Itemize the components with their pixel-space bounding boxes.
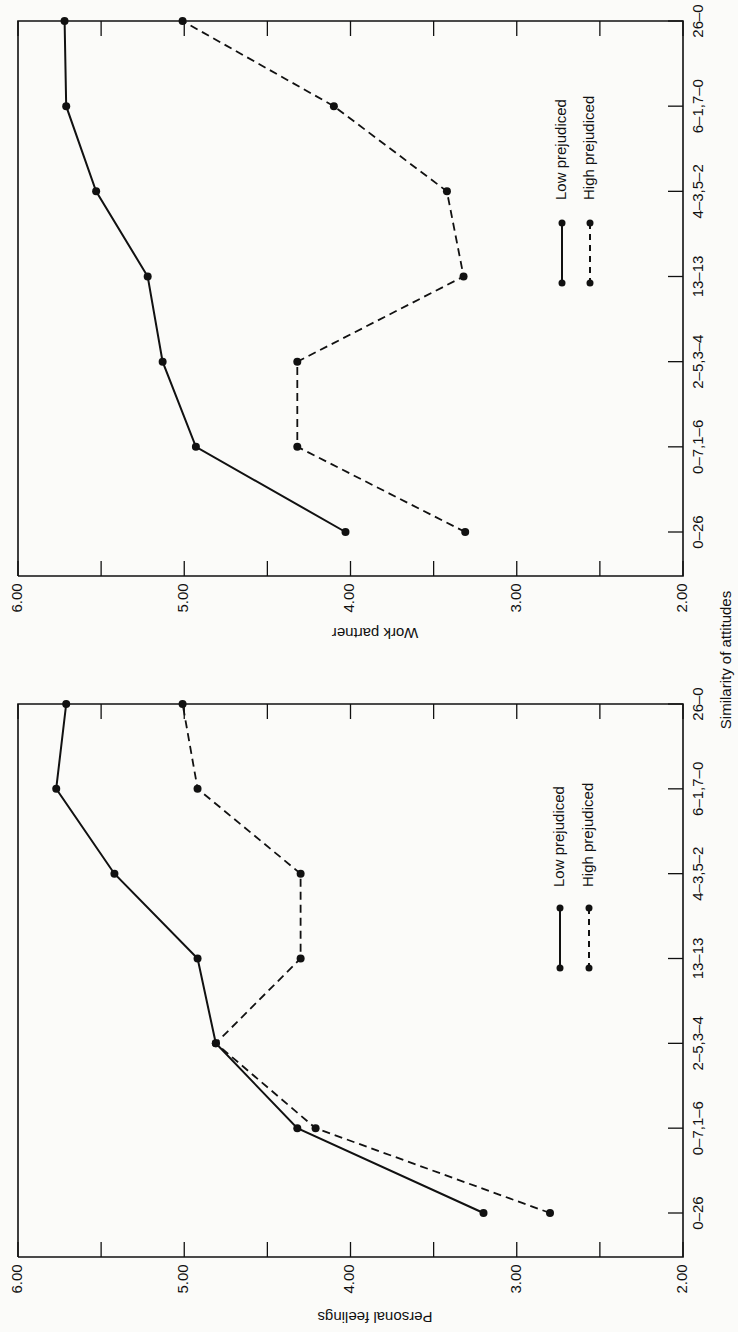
x-axis-label-similarity: Similarity of attitudes (717, 591, 734, 729)
data-point (52, 785, 60, 793)
category-label: 26–0 (689, 4, 706, 37)
legend-marker (586, 905, 593, 912)
data-point (61, 17, 69, 25)
data-point (62, 700, 70, 708)
data-point (342, 528, 350, 536)
category-label: 13–13 (689, 938, 706, 980)
legend-marker (557, 905, 564, 912)
category-label: 6–1,7–0 (689, 79, 706, 133)
data-point (92, 187, 100, 195)
high-prejudiced-line (183, 704, 550, 1213)
data-point (460, 273, 468, 281)
legend-marker (557, 965, 564, 972)
y-axis-label: Personal feelings (317, 1309, 432, 1326)
data-point (194, 785, 202, 793)
data-point (293, 1124, 301, 1132)
legend-label: High prejudiced (580, 96, 597, 200)
low-prejudiced-line (56, 704, 483, 1213)
value-tick-label: 5.00 (174, 583, 191, 612)
legend-label: High prejudiced (579, 783, 596, 887)
personal-feelings-chart: 2.003.004.005.006.000–260–7,1–62–5,3–413… (8, 687, 706, 1326)
data-point (480, 1209, 488, 1217)
data-point (194, 955, 202, 963)
data-point (461, 528, 469, 536)
category-label: 0–7,1–6 (689, 1101, 706, 1155)
data-point (212, 1039, 220, 1047)
data-point (330, 102, 338, 110)
data-point (546, 1209, 554, 1217)
category-label: 0–26 (689, 1196, 706, 1229)
category-label: 2–5,3–4 (689, 1016, 706, 1070)
category-label: 13–13 (689, 256, 706, 298)
legend-marker (559, 280, 566, 287)
data-point (144, 273, 152, 281)
data-point (443, 187, 451, 195)
rotated-line-charts: 2.003.004.005.006.000–260–7,1–62–5,3–413… (0, 0, 738, 1332)
category-label: 4–3,5–2 (689, 847, 706, 901)
data-point (179, 17, 187, 25)
data-point (110, 870, 118, 878)
category-label: 2–5,3–4 (689, 335, 706, 389)
legend-marker (559, 220, 566, 227)
value-tick-label: 2.00 (673, 1264, 690, 1293)
value-tick-label: 5.00 (174, 1264, 191, 1293)
value-tick-label: 3.00 (507, 1264, 524, 1293)
category-label: 4–3,5–2 (689, 164, 706, 218)
data-point (192, 443, 200, 451)
value-tick-label: 4.00 (340, 1264, 357, 1293)
data-point (179, 700, 187, 708)
value-tick-label: 6.00 (8, 1264, 25, 1293)
category-label: 26–0 (689, 687, 706, 720)
data-point (62, 102, 70, 110)
legend-marker (587, 280, 594, 287)
y-axis-label: Work partner (332, 625, 418, 642)
legend-label: Low prejudiced (552, 99, 569, 200)
data-point (297, 955, 305, 963)
category-label: 6–1,7–0 (689, 762, 706, 816)
value-tick-label: 2.00 (673, 583, 690, 612)
low-prejudiced-line (65, 21, 346, 532)
value-tick-label: 6.00 (8, 583, 25, 612)
high-prejudiced-line (183, 21, 466, 532)
category-label: 0–26 (689, 515, 706, 548)
category-label: 0–7,1–6 (689, 420, 706, 474)
work-partner-chart: 2.003.004.005.006.000–260–7,1–62–5,3–413… (8, 4, 706, 642)
data-point (297, 870, 305, 878)
legend-marker (587, 220, 594, 227)
value-tick-label: 4.00 (340, 583, 357, 612)
legend-marker (586, 965, 593, 972)
value-tick-label: 3.00 (507, 583, 524, 612)
figure: 2.003.004.005.006.000–260–7,1–62–5,3–413… (0, 0, 738, 1332)
data-point (293, 358, 301, 366)
data-point (159, 358, 167, 366)
legend-label: Low prejudiced (550, 786, 567, 887)
data-point (312, 1124, 320, 1132)
data-point (293, 443, 301, 451)
